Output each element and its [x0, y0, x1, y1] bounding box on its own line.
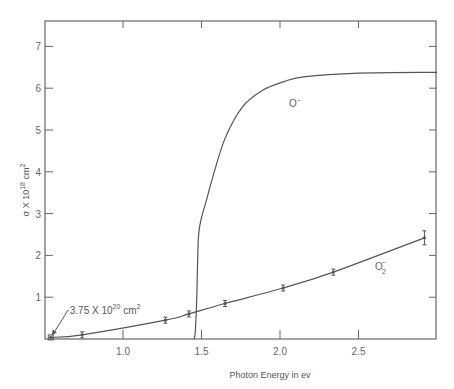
y-axis-label: σ X 1018 cm2 — [19, 164, 31, 217]
o2-minus-label: O−2 — [375, 259, 386, 275]
data-point — [49, 336, 52, 339]
y-tick-label: 7 — [35, 41, 41, 52]
plot-border — [45, 21, 436, 339]
o2-minus-curve — [51, 238, 425, 338]
data-point — [187, 312, 190, 315]
o-minus-label: O− — [289, 97, 301, 109]
x-axis-label: Photon Energy in ev — [229, 370, 311, 380]
annotation-leader — [53, 310, 69, 334]
x-tick-label: 2.0 — [273, 346, 287, 357]
y-tick-label: 4 — [35, 167, 41, 178]
series-o-minus: O− — [194, 72, 437, 339]
data-point — [223, 302, 226, 305]
data-point — [81, 333, 84, 336]
chart: 1.01.52.02.5 1234567 O− O−2 3.75 X 1020 … — [0, 0, 454, 389]
data-point — [332, 271, 335, 274]
y-tick-label: 2 — [35, 250, 41, 261]
y-tick-label: 1 — [35, 292, 41, 303]
x-tick-label: 2.5 — [352, 346, 366, 357]
annotation: 3.75 X 1020 cm2 — [48, 303, 140, 340]
y-tick-label: 5 — [35, 125, 41, 136]
data-point — [282, 286, 285, 289]
annotation-text: 3.75 X 1020 cm2 — [70, 303, 141, 316]
x-tick-label: 1.5 — [195, 346, 209, 357]
y-tick-label: 3 — [35, 209, 41, 220]
y-tick-label: 6 — [35, 83, 41, 94]
series-o2-minus: O−2 — [49, 231, 426, 339]
x-axis: 1.01.52.02.5 — [116, 21, 366, 357]
o-minus-curve — [194, 72, 437, 339]
plot-frame — [45, 21, 436, 339]
data-point — [423, 236, 426, 239]
x-tick-label: 1.0 — [116, 346, 130, 357]
data-point — [164, 319, 167, 322]
